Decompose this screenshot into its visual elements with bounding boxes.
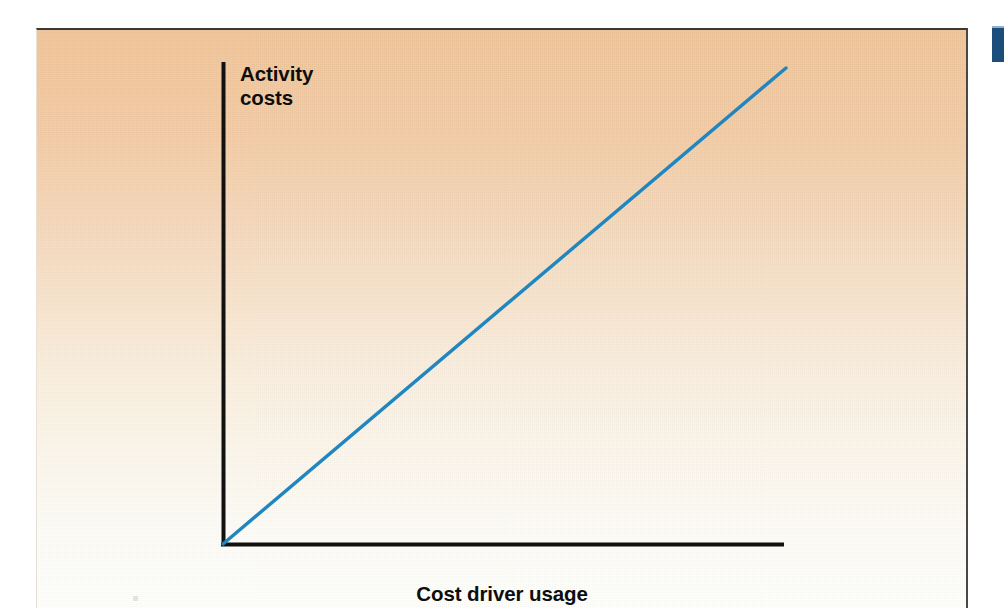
line-chart-plot [37,30,969,610]
x-axis-label: Cost driver usage [222,582,782,606]
series-line-activity-costs [223,68,786,544]
figure-panel: Activity costs Cost driver usage [36,28,968,608]
scan-artifact-speck [133,596,138,601]
chapter-tab-marker-icon [992,26,1004,62]
y-axis-label: Activity costs [240,62,313,110]
